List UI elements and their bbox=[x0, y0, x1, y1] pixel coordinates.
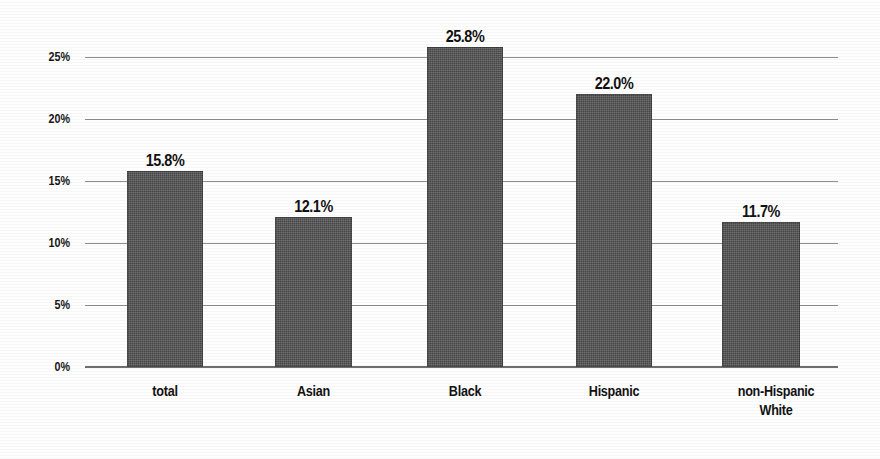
bar-value-label-asian: 12.1% bbox=[279, 199, 348, 215]
y-axis-tick-25: 25% bbox=[10, 51, 70, 64]
x-axis-label-asian: Asian bbox=[279, 382, 348, 401]
bar-value-label-hispanic: 22.0% bbox=[580, 76, 648, 92]
bar-value-label-total: 15.8% bbox=[131, 153, 199, 169]
bar-asian[interactable] bbox=[275, 217, 352, 367]
bar-value-label-non-hispanic-white: 11.7% bbox=[726, 204, 796, 220]
y-axis-tick-0: 0% bbox=[10, 361, 70, 374]
y-axis-tick-5: 5% bbox=[10, 299, 70, 312]
x-axis-label-hispanic: Hispanic bbox=[580, 382, 648, 401]
bar-hispanic[interactable] bbox=[576, 94, 652, 367]
bar-total[interactable] bbox=[127, 171, 203, 367]
bar-black[interactable] bbox=[427, 47, 503, 367]
x-axis-label-black: Black bbox=[431, 382, 499, 401]
bar-non-hispanic-white[interactable] bbox=[722, 222, 800, 367]
bar-value-label-black: 25.8% bbox=[431, 29, 499, 45]
y-axis: 25% 20% 15% 10% 5% 0% bbox=[0, 57, 78, 367]
x-axis-label-total: total bbox=[131, 382, 199, 401]
y-axis-tick-15: 15% bbox=[10, 175, 70, 188]
x-axis-label-non-hispanic-white: non-Hispanic White bbox=[714, 382, 838, 420]
y-axis-tick-10: 10% bbox=[10, 237, 70, 250]
bar-chart: 25% 20% 15% 10% 5% 0% 15.8% 12.1% 25.8% … bbox=[0, 0, 880, 459]
plot-area: 15.8% 12.1% 25.8% 22.0% 11.7% bbox=[85, 57, 838, 367]
y-axis-tick-20: 20% bbox=[10, 113, 70, 126]
